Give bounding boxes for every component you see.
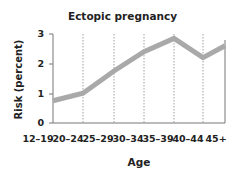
x-tick-45-plus: 45+ <box>198 133 234 144</box>
y-tick-1: 1 <box>32 88 44 99</box>
y-tick-2: 2 <box>32 58 44 69</box>
x-axis-label: Age <box>53 156 225 168</box>
risk-line <box>53 38 225 100</box>
y-tick-0: 0 <box>32 117 44 128</box>
y-axis-label: Risk (percent) <box>13 40 24 120</box>
y-tick-3: 3 <box>32 28 44 39</box>
